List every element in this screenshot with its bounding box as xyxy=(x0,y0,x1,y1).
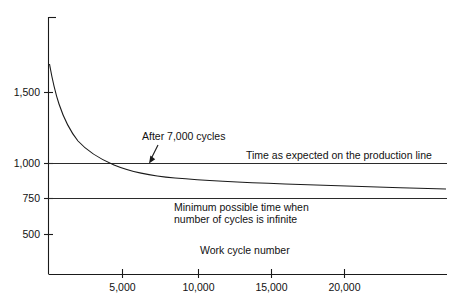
x-tick-label-15000: 15,000 xyxy=(255,281,287,293)
y-tick-label-500: 500 xyxy=(22,228,40,240)
chart-figure: 1,500 1,000 750 500 5,000 10,000 15,000 … xyxy=(0,0,458,305)
label-expected-time: Time as expected on the production line xyxy=(246,149,432,161)
y-tick-label-1500: 1,500 xyxy=(14,86,40,98)
y-tick-label-750: 750 xyxy=(22,192,40,204)
y-tick-label-1000: 1,000 xyxy=(14,157,40,169)
label-minimum-time-line2: number of cycles is infinite xyxy=(174,213,297,225)
x-tick-label-5000: 5,000 xyxy=(109,281,135,293)
label-minimum-time-line1: Minimum possible time when xyxy=(174,201,309,213)
x-tick-label-10000: 10,000 xyxy=(182,281,214,293)
annotation-after-7000-cycles: After 7,000 cycles xyxy=(142,130,225,142)
x-axis-title: Work cycle number xyxy=(200,244,290,256)
learning-curve-chart: 1,500 1,000 750 500 5,000 10,000 15,000 … xyxy=(0,0,458,305)
x-tick-label-20000: 20,000 xyxy=(328,281,360,293)
